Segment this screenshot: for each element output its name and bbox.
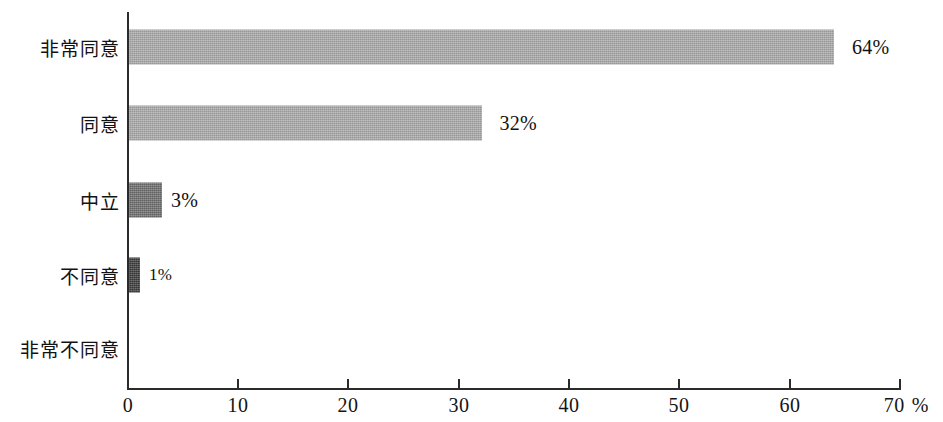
x-tick-label-50: 50 <box>669 394 690 417</box>
category-label-neutral: 中立 <box>0 187 120 214</box>
x-tick-30 <box>458 379 460 389</box>
bar-value-disagree: 1% <box>149 265 172 285</box>
category-label-disagree: 不同意 <box>0 262 120 289</box>
x-tick-label-10: 10 <box>228 394 249 417</box>
x-tick-label-20: 20 <box>338 394 359 417</box>
category-label-agree: 同意 <box>0 110 120 137</box>
x-tick-label-70-value: 70 <box>884 394 905 416</box>
x-tick-label-0: 0 <box>123 394 134 417</box>
x-tick-label-40: 40 <box>559 394 580 417</box>
bar-disagree <box>129 258 140 293</box>
x-tick-label-70: 70% <box>884 394 929 417</box>
bar-value-agree: 32% <box>500 112 538 135</box>
x-tick-10 <box>237 379 239 389</box>
bar-chart: 0 10 20 30 40 50 60 70% 非常同意 64% 同意 32% … <box>0 0 943 422</box>
x-tick-label-60: 60 <box>780 394 801 417</box>
x-axis-unit-label: % <box>912 394 929 416</box>
bar-neutral <box>129 183 162 218</box>
bar-agree <box>129 106 482 141</box>
x-tick-60 <box>789 379 791 389</box>
x-tick-0 <box>127 379 129 389</box>
bar-value-neutral: 3% <box>171 189 198 212</box>
x-tick-20 <box>347 379 349 389</box>
x-tick-70 <box>899 379 901 389</box>
x-axis-line <box>127 388 901 390</box>
x-tick-label-30: 30 <box>449 394 470 417</box>
bar-strongly-agree <box>129 30 834 65</box>
plot-area: 0 10 20 30 40 50 60 70% 非常同意 64% 同意 32% … <box>0 0 943 422</box>
category-label-strongly-agree: 非常同意 <box>0 34 120 61</box>
x-tick-50 <box>678 379 680 389</box>
bar-value-strongly-agree: 64% <box>852 36 890 59</box>
x-tick-40 <box>568 379 570 389</box>
category-label-strongly-disagree: 非常不同意 <box>0 335 120 362</box>
